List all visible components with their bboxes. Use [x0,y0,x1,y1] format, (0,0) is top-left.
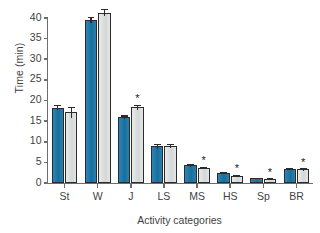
x-tick-label: BR [289,190,304,202]
x-tick-label: St [60,190,70,202]
bar-br-blue [284,169,296,183]
y-tick-label: 40 [30,11,42,23]
y-tick-label: 15 [30,114,42,126]
bar-st-blue [52,108,64,183]
y-tick-mark [44,38,49,40]
x-tick-mark [97,183,99,188]
y-tick-mark [44,58,49,60]
y-tick-label: 0 [36,176,42,188]
y-tick-label: 35 [30,31,42,43]
x-tick-label: LS [158,190,171,202]
bar-ms-gray [198,168,210,183]
significance-asterisk-br: * [301,158,305,166]
x-tick-mark [263,183,265,188]
x-tick-mark [163,183,165,188]
bar-j-blue [118,117,130,183]
x-tick-mark [229,183,231,188]
error-bar-cap [134,105,141,106]
y-tick-mark [44,182,49,184]
x-tick-label: MS [189,190,205,202]
y-tick-mark [44,79,49,81]
bar-hs-blue [217,173,229,183]
bar-st-gray [65,112,77,183]
x-tick-label: W [93,190,103,202]
y-tick-mark [44,162,49,164]
y-axis-label: Time (min) [13,13,25,123]
y-tick-mark [44,120,49,122]
error-bar-cap [220,172,227,173]
error-bar-cap [167,144,174,145]
significance-asterisk-j: * [135,94,139,102]
bar-ls-blue [151,146,163,183]
x-tick-label: Sp [257,190,270,202]
y-tick-mark [44,141,49,143]
bar-br-gray [297,169,309,183]
bar-hs-gray [231,176,243,183]
significance-asterisk-hs: * [235,164,239,172]
bar-w-gray [98,13,110,183]
error-bar-cap [121,115,128,116]
x-tick-mark [296,183,298,188]
error-bar-cap [187,164,194,165]
y-tick-mark [44,17,49,19]
x-axis-label: Activity categories [47,214,312,226]
bar-j-gray [131,107,143,183]
error-bar-cap [300,168,307,169]
error-bar-cap [200,167,207,168]
error-bar-cap [233,175,240,176]
y-tick-label: 20 [30,93,42,105]
significance-asterisk-sp: * [268,168,272,176]
x-tick-mark [196,183,198,188]
x-tick-mark [64,183,66,188]
error-bar-cap [88,17,95,18]
y-tick-label: 25 [30,72,42,84]
bar-ls-gray [164,146,176,183]
chart-figure: Time (min) 0510152025303540StWJ*LSMS*HS*… [0,0,320,233]
error-bar-stem [71,107,72,119]
error-bar-cap [54,105,61,106]
y-tick-label: 5 [36,155,42,167]
bar-ms-blue [184,165,196,183]
error-bar-cap [267,178,274,179]
y-tick-label: 30 [30,52,42,64]
error-bar-cap [286,168,293,169]
error-bar-cap [68,107,75,108]
y-tick-label: 10 [30,134,42,146]
error-bar-cap [101,9,108,10]
x-tick-label: J [128,190,133,202]
x-tick-mark [130,183,132,188]
significance-asterisk-ms: * [202,156,206,164]
plot-area: 0510152025303540StWJ*LSMS*HS*Sp*BR* [47,18,313,184]
x-tick-label: HS [223,190,238,202]
error-bar-cap [253,178,260,179]
y-tick-mark [44,100,49,102]
error-bar-cap [154,144,161,145]
bar-w-blue [85,20,97,183]
